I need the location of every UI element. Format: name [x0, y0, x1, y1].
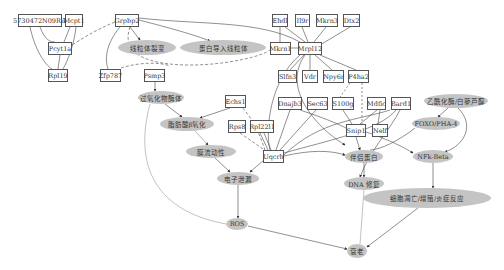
gene-node-pcyt1a[interactable]: Pcyt1a — [48, 42, 72, 55]
gene-node-5730472n09rik[interactable]: 5730472N09Rik — [18, 14, 62, 27]
process-node-acetylase-resveratrol[interactable]: 乙酰化酶/白藜芦醇 — [424, 94, 488, 108]
gene-node-p4ha2[interactable]: P4ha2 — [348, 70, 369, 83]
gene-node-rps8[interactable]: Rps8 — [228, 120, 246, 133]
gene-node-snip1[interactable]: Snip1 — [346, 124, 366, 137]
process-node-peroxisome[interactable]: 过氧化物酶体 — [138, 91, 184, 104]
gene-node-il9r[interactable]: Il9r — [295, 14, 310, 27]
process-node-beta-oxidation[interactable]: 脂肪酸β氧化 — [160, 117, 214, 131]
process-node-mito-fission[interactable]: 线粒体裂变 — [118, 40, 176, 55]
process-node-protein-import[interactable]: 蛋白导入线粒体 — [180, 40, 266, 55]
process-node-chaperone[interactable]: 伴侣蛋白 — [345, 150, 383, 163]
gene-node-dnajb3[interactable]: Dnajb3 — [278, 97, 302, 110]
process-node-aging[interactable]: 衰老 — [347, 244, 367, 258]
gene-node-mcpt1[interactable]: Mcpt1 — [65, 14, 83, 27]
gene-node-ehdl[interactable]: Ehdl — [272, 14, 288, 27]
process-node-dna-repair[interactable]: DNA 修复 — [344, 177, 384, 190]
gene-node-mkrn3[interactable]: Mkrn3 — [316, 14, 338, 27]
gene-node-mrpl12[interactable]: Mrpl12 — [298, 42, 322, 55]
process-node-membrane-fluidity[interactable]: 膜流动性 — [186, 145, 236, 158]
gene-node-zfp787[interactable]: Zfp787 — [100, 69, 121, 82]
process-node-nfkb[interactable]: NFk-Beta — [413, 150, 453, 163]
gene-node-mkrn1[interactable]: Mkrn1 — [270, 42, 291, 55]
gene-node-echs1[interactable]: Echs1 — [225, 95, 246, 108]
gene-node-rpl19[interactable]: Rpl19 — [48, 69, 68, 82]
gene-node-dtx2[interactable]: Dtx2 — [343, 14, 360, 27]
process-node-electron-leak[interactable]: 电子泄漏 — [217, 172, 259, 185]
gene-node-slfn3[interactable]: Slfn3 — [278, 70, 297, 83]
gene-node-rpl22l1[interactable]: Rpl22l1 — [250, 120, 274, 133]
edge-layer — [0, 0, 504, 270]
gene-node-vdr[interactable]: Vdr — [302, 70, 318, 83]
process-node-foxo[interactable]: FOXO/PHA-4 — [412, 117, 460, 130]
gene-node-mdfic[interactable]: Mdfic — [367, 97, 386, 110]
gene-node-grpbp2[interactable]: Grpbp2 — [115, 14, 139, 27]
gene-node-sec63[interactable]: Sec63 — [307, 97, 328, 110]
network-diagram: 5730472N09Rik Mcpt1 Pcyt1a Rpl19 Grpbp2 … — [0, 0, 504, 270]
process-node-ros[interactable]: ROS — [226, 218, 248, 230]
gene-node-psmp3[interactable]: Psmp3 — [144, 69, 165, 82]
gene-node-nelf[interactable]: Nelf — [372, 124, 388, 137]
gene-node-s100g[interactable]: S100g — [332, 97, 354, 110]
process-node-apoptosis[interactable]: 细胞凋亡/增殖/炎症反应 — [363, 188, 491, 208]
gene-node-uqcrh[interactable]: Uqcrh — [263, 150, 284, 163]
gene-node-bard1[interactable]: Bard1 — [391, 97, 411, 110]
gene-node-npy6r[interactable]: Npy6r — [323, 70, 344, 83]
